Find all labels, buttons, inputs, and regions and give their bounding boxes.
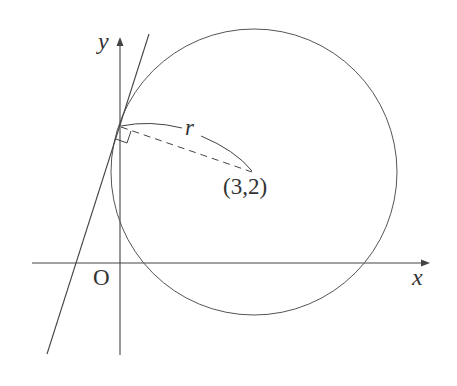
tangent-line bbox=[47, 34, 149, 354]
radius-label: r bbox=[185, 115, 194, 141]
x-axis-label: x bbox=[412, 264, 423, 291]
y-axis-label: y bbox=[98, 28, 109, 55]
right-angle-marker bbox=[116, 131, 131, 143]
y-axis-arrow-icon bbox=[117, 37, 124, 46]
radius-brace bbox=[121, 123, 182, 128]
radius-brace-2 bbox=[201, 136, 252, 171]
origin-label: O bbox=[93, 265, 110, 291]
circle bbox=[111, 29, 397, 315]
center-label: (3,2) bbox=[223, 174, 267, 200]
